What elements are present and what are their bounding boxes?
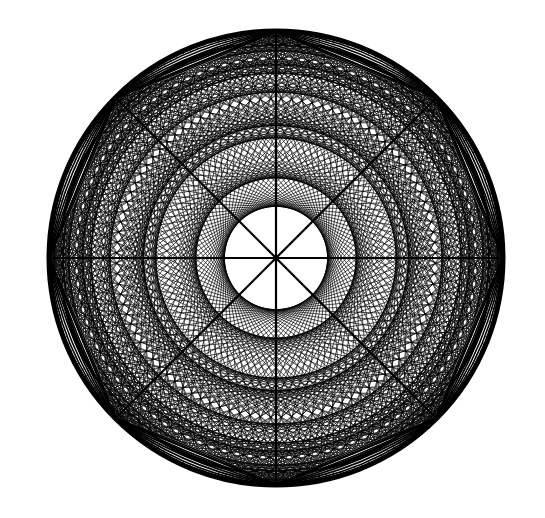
octagonal-chord-diagram xyxy=(0,0,545,518)
